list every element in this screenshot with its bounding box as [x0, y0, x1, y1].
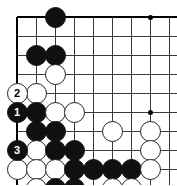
stone-black: [45, 121, 66, 142]
star-point: [148, 15, 153, 20]
stone-white: [26, 178, 47, 186]
stone-white: [102, 121, 123, 142]
stone-black: [45, 178, 66, 186]
stone-black: [26, 121, 47, 142]
stone-black: [26, 45, 47, 66]
stone-black: [64, 140, 85, 161]
stone-white: [140, 140, 161, 161]
stone-white: [7, 159, 28, 180]
stone-white: [45, 159, 66, 180]
stone-black: [102, 159, 123, 180]
move-stone-white-2: 2: [7, 83, 28, 104]
stone-black: [83, 159, 104, 180]
stone-black: [64, 159, 85, 180]
stone-white: [26, 83, 47, 104]
stone-white: [45, 64, 66, 85]
stone-black: [26, 102, 47, 123]
stone-white: [26, 140, 47, 161]
grid-line-horizontal: [17, 36, 177, 37]
stone-black: [45, 7, 66, 28]
grid-line-vertical: [169, 17, 170, 185]
stone-black: [121, 159, 142, 180]
move-stone-black-3: 3: [7, 140, 28, 161]
stone-white: [26, 159, 47, 180]
stone-white: [140, 121, 161, 142]
stone-white: [64, 102, 85, 123]
grid-line-horizontal: [17, 74, 177, 75]
stone-black: [45, 45, 66, 66]
move-stone-black-1: 1: [7, 102, 28, 123]
star-point: [148, 110, 153, 115]
stone-white: [140, 159, 161, 180]
stone-white: [45, 102, 66, 123]
stone-white: [102, 178, 123, 186]
go-board-diagram: 213 2 도: [0, 0, 177, 185]
stone-black: [45, 140, 66, 161]
grid-line-horizontal: [17, 16, 177, 18]
stone-black: [64, 178, 85, 186]
